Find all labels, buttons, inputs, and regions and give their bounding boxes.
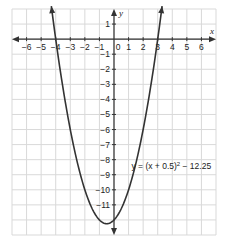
y-tick-label: −3 (100, 79, 110, 89)
y-tick-label: −9 (100, 170, 110, 180)
x-axis-right-arrow-icon (209, 36, 216, 42)
x-tick-label: 2 (141, 42, 146, 52)
y-axis-up-arrow-icon (111, 9, 117, 16)
x-tick-label: −2 (80, 42, 90, 52)
curve-arrowheads (49, 6, 164, 13)
y-axis-label: y (118, 8, 123, 18)
y-tick-label: −8 (100, 155, 110, 165)
x-tick-label: 1 (126, 42, 131, 52)
y-tick-label: −11 (96, 200, 110, 210)
y-axis-down-arrow-icon (111, 228, 117, 235)
x-tick-label: −6 (22, 42, 32, 52)
x-tick-label: −5 (36, 42, 46, 52)
x-tick-label: 0 (116, 42, 121, 52)
y-tick-label: −7 (100, 140, 110, 150)
equation-prefix: y = (x + 0.5) (131, 161, 177, 171)
parabola-chart: −6−5−4−3−2−101234561−1−2−3−4−5−6−7−8−9−1… (0, 0, 228, 247)
equation-label: y = (x + 0.5)2 − 12.25 (131, 161, 211, 171)
y-tick-label: −4 (100, 94, 110, 104)
y-tick-label: −1 (100, 49, 110, 59)
x-tick-label: 5 (184, 42, 189, 52)
x-axis-label: x (209, 26, 214, 36)
y-tick-label: −10 (96, 185, 111, 195)
equation-suffix: − 12.25 (180, 161, 211, 171)
x-tick-label: −3 (65, 42, 75, 52)
y-tick-label: −5 (100, 109, 110, 119)
y-tick-label: −6 (100, 125, 110, 135)
y-tick-label: 1 (105, 19, 110, 29)
y-tick-label: −2 (100, 64, 110, 74)
x-tick-label: 6 (199, 42, 204, 52)
x-tick-label: 4 (170, 42, 175, 52)
x-axis-left-arrow-icon (12, 36, 19, 42)
